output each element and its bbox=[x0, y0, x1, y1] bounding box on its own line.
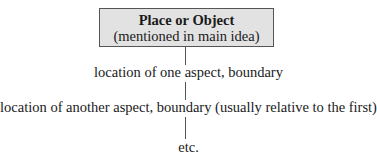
root-node-subtitle: (mentioned in main idea) bbox=[100, 28, 273, 44]
connector-line-3 bbox=[185, 117, 186, 139]
step-label-2: location of another aspect, boundary (us… bbox=[0, 99, 377, 115]
root-node-title: Place or Object bbox=[100, 12, 273, 28]
step-label-3: etc. bbox=[0, 139, 377, 155]
connector-line-2 bbox=[185, 82, 186, 100]
step-label-1: location of one aspect, boundary bbox=[0, 64, 377, 80]
connector-line-1 bbox=[185, 46, 186, 65]
root-node-box: Place or Object (mentioned in main idea) bbox=[99, 8, 274, 47]
